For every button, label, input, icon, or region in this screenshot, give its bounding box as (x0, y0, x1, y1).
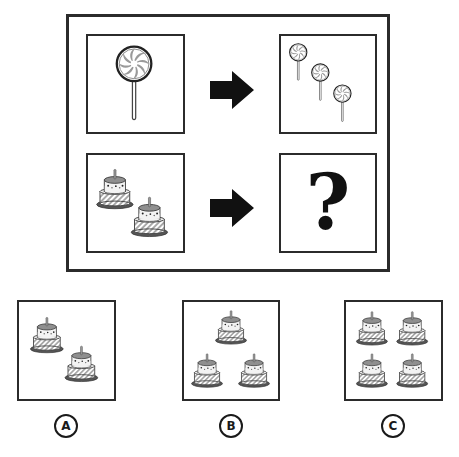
top-left-cell (86, 34, 185, 134)
option-b-label[interactable]: B (219, 414, 243, 438)
option-a-label[interactable]: A (54, 414, 78, 438)
question-mark: ? (306, 165, 351, 241)
top-right-cell (279, 34, 377, 134)
lollipop-group-icon (281, 36, 375, 132)
cake-group-icon (184, 302, 278, 399)
option-c-label[interactable]: C (381, 414, 405, 438)
right-arrow-icon (210, 189, 254, 227)
lollipop-icon (88, 36, 183, 132)
option-b-box[interactable] (182, 300, 280, 401)
bottom-left-cell (86, 153, 185, 253)
option-a-box[interactable] (17, 300, 116, 401)
right-arrow-icon (210, 71, 254, 109)
answer-cell: ? (279, 153, 377, 253)
cake-group-icon (88, 155, 183, 251)
cake-group-icon (19, 302, 114, 399)
option-c-box[interactable] (344, 300, 443, 401)
cake-group-icon (346, 302, 441, 399)
